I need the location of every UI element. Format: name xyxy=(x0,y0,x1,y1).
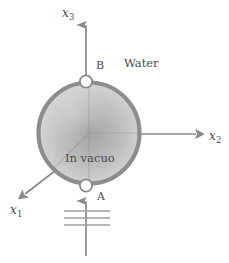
figure-container: x3 x2 x1 B A Water In vacuo xyxy=(0,0,229,263)
node-a-marker xyxy=(80,179,92,191)
axis-label-x3-base: x xyxy=(62,6,69,20)
node-label-b: B xyxy=(96,60,104,71)
axis-label-x1: x1 xyxy=(10,204,22,218)
region-label-in-vacuo: In vacuo xyxy=(65,153,115,165)
axis-label-x2-subscript: 2 xyxy=(216,135,221,145)
axis-label-x3: x3 xyxy=(62,7,74,21)
node-label-a: A xyxy=(97,191,105,202)
axis-label-x2: x2 xyxy=(209,130,221,144)
axis-label-x3-subscript: 3 xyxy=(69,12,74,22)
diagram-canvas xyxy=(0,0,229,263)
axis-label-x1-base: x xyxy=(10,203,17,217)
region-label-water: Water xyxy=(124,58,159,70)
axis-label-x1-subscript: 1 xyxy=(17,209,22,219)
axis-label-x2-base: x xyxy=(209,129,216,143)
node-b-marker xyxy=(80,75,92,87)
feed-line-group xyxy=(64,201,110,256)
